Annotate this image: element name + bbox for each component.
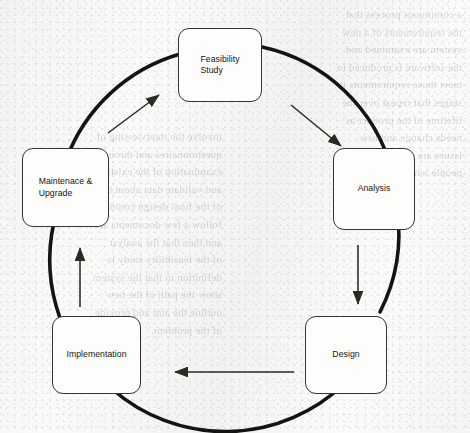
ring-arc-left bbox=[50, 222, 60, 318]
stage-box-maintenance-upgrade[interactable]: Maintenace & Upgrade bbox=[22, 148, 109, 227]
arrow-maintenance-to-feasibility bbox=[108, 95, 159, 133]
stage-box-analysis[interactable]: Analysis bbox=[333, 148, 415, 230]
stage-label-analysis: Analysis bbox=[358, 183, 391, 194]
stage-box-design[interactable]: Design bbox=[305, 316, 387, 394]
stage-label-maintenance-upgrade: Maintenace & Upgrade bbox=[39, 176, 93, 199]
stage-label-design: Design bbox=[332, 349, 359, 360]
stage-label-feasibility-study: Feasibility Study bbox=[200, 54, 239, 77]
stage-box-feasibility-study[interactable]: Feasibility Study bbox=[178, 28, 262, 102]
stage-label-implementation: Implementation bbox=[66, 349, 126, 360]
arrow-feasibility-to-analysis bbox=[291, 105, 341, 146]
ring-arc-top-left bbox=[66, 54, 180, 160]
sdlc-cycle-diagram: a continuous process that the requiremen… bbox=[0, 0, 470, 433]
stage-box-implementation[interactable]: Implementation bbox=[52, 316, 141, 394]
